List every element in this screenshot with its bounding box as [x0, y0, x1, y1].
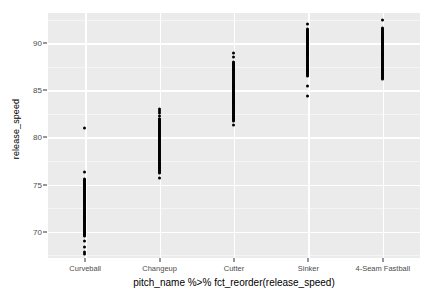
- data-point: [158, 176, 161, 179]
- x-axis-tick-label: Changeup: [142, 264, 177, 273]
- data-point: [232, 120, 235, 123]
- data-point: [232, 124, 235, 127]
- data-point: [83, 126, 86, 129]
- data-point: [306, 94, 309, 97]
- y-axis-tick-labels: 7075808590: [22, 0, 42, 258]
- chart-root: release_speed 7075808590 pitch_name %>% …: [0, 0, 438, 300]
- y-axis-tick-mark: [43, 231, 47, 232]
- data-strip: [308, 13, 309, 258]
- data-point: [83, 171, 86, 174]
- x-axis-tick-label: 4-Seam Fastball: [355, 264, 410, 273]
- data-point: [232, 56, 235, 59]
- x-axis-tick-mark: [159, 258, 160, 262]
- x-axis-tick-label: Curveball: [69, 264, 101, 273]
- data-point: [306, 84, 309, 87]
- data-point: [83, 240, 86, 243]
- data-point: [83, 253, 86, 256]
- x-axis-tick-mark: [382, 258, 383, 262]
- x-axis-tick-label: Sinker: [298, 264, 319, 273]
- x-axis-tick-label: Cutter: [224, 264, 244, 273]
- y-axis-title-label: release_speed: [11, 99, 21, 159]
- y-axis-tick-label: 85: [22, 86, 42, 95]
- x-axis-tick-mark: [85, 258, 86, 262]
- x-axis-title-label: pitch_name %>% fct_reorder(release_speed…: [133, 277, 335, 288]
- data-point: [158, 172, 161, 175]
- x-axis-tick-mark: [308, 258, 309, 262]
- y-axis-tick-mark: [43, 90, 47, 91]
- y-axis-tick-label: 90: [22, 39, 42, 48]
- y-axis-tick-label: 80: [22, 133, 42, 142]
- y-axis-tick-label: 75: [22, 180, 42, 189]
- data-point: [306, 23, 309, 26]
- data-strip: [159, 13, 160, 258]
- plot-panel: [48, 13, 420, 258]
- y-axis-tick-mark: [43, 184, 47, 185]
- x-axis-tick-mark: [234, 258, 235, 262]
- data-point: [83, 235, 86, 238]
- x-axis-title: pitch_name %>% fct_reorder(release_speed…: [48, 277, 420, 288]
- y-axis-tick-label: 70: [22, 227, 42, 236]
- y-axis-tick-mark: [43, 43, 47, 44]
- data-point: [306, 75, 309, 78]
- data-strip: [382, 13, 383, 258]
- data-strip: [234, 13, 235, 258]
- data-point: [232, 51, 235, 54]
- data-point: [381, 18, 384, 21]
- data-point: [381, 77, 384, 80]
- y-axis-tick-mark: [43, 137, 47, 138]
- data-strip: [85, 13, 86, 258]
- data-point: [83, 245, 86, 248]
